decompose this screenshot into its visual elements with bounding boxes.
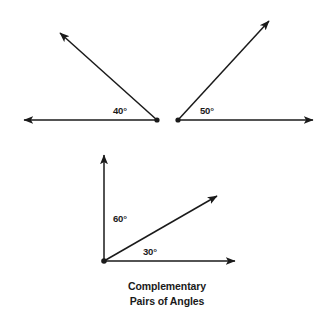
caption-line-2: Pairs of Angles (130, 295, 205, 307)
fifty-degree-label: 50° (200, 105, 214, 116)
sixty-thirty-vertex-dot (101, 258, 107, 264)
forty-vertex-dot (154, 117, 159, 122)
fifty-degree-angle-diagram: 50° (175, 21, 313, 123)
thirty-diagonal-up-right-ray (104, 196, 217, 261)
diagram-canvas: 40° 50° 60° 30° Complementary Pairs of A… (0, 0, 335, 323)
sixty-thirty-degree-angle-diagram: 60° 30° (101, 155, 235, 264)
forty-upper-left-ray (60, 33, 157, 120)
forty-degree-angle-diagram: 40° (24, 33, 160, 123)
thirty-degree-label: 30° (143, 246, 157, 257)
caption-line-1: Complementary (128, 280, 206, 292)
figure-caption: Complementary Pairs of Angles (128, 280, 206, 307)
fifty-vertex-dot (175, 117, 180, 122)
complementary-angles-figure: 40° 50° 60° 30° Complementary Pairs of A… (0, 0, 335, 323)
sixty-degree-label: 60° (113, 213, 127, 224)
forty-degree-label: 40° (113, 105, 127, 116)
fifty-upper-right-ray (178, 21, 269, 120)
